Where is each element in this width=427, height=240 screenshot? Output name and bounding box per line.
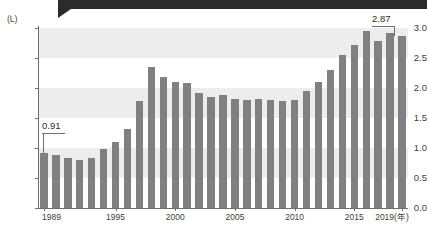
y-axis-unit-label: (L): [7, 14, 17, 24]
bar: [339, 55, 346, 208]
bar: [52, 155, 59, 208]
annotation-underline: [372, 26, 395, 27]
y-axis-tick-mark: [35, 28, 38, 29]
value-annotation: 0.91: [42, 121, 61, 131]
x-axis-tick-label: 2015: [345, 213, 364, 222]
bar: [363, 31, 370, 208]
x-axis-tick-label: 2000: [166, 213, 185, 222]
y-axis-tick-label: 3.0: [399, 23, 427, 33]
bar: [351, 45, 358, 208]
annotation-leader-line: [394, 26, 395, 36]
bar: [231, 99, 238, 208]
y-axis-tick-mark: [35, 148, 38, 149]
bar: [315, 82, 322, 208]
bar: [386, 33, 393, 208]
bar: [255, 99, 262, 208]
x-axis-tick-label: 1995: [106, 213, 125, 222]
bar: [160, 77, 167, 208]
x-axis-tick-mark: [235, 208, 236, 211]
x-axis-tick-mark: [44, 208, 45, 211]
x-axis-tick-label: 2005: [225, 213, 244, 222]
bar: [136, 101, 143, 208]
x-axis-tick-mark: [116, 208, 117, 211]
bar: [148, 67, 155, 208]
bar: [279, 101, 286, 208]
bar: [219, 95, 226, 208]
x-axis-tick-mark: [402, 208, 403, 211]
x-axis-tick-label: 2019(年): [375, 213, 409, 222]
y-axis-line: [38, 26, 39, 209]
bar: [303, 91, 310, 208]
bar: [374, 41, 381, 208]
x-axis-tick-mark: [354, 208, 355, 211]
bar: [124, 129, 131, 208]
annotation-underline: [42, 133, 65, 134]
x-axis-line: [38, 208, 408, 209]
bar: [100, 149, 107, 208]
y-axis-tick-mark: [35, 118, 38, 119]
x-axis-tick-label: 1989: [42, 213, 61, 222]
bar: [207, 97, 214, 208]
bar: [398, 36, 405, 208]
bar: [76, 160, 83, 208]
annotation-leader-line: [43, 133, 44, 153]
bar: [267, 100, 274, 208]
value-annotation: 2.87: [372, 14, 391, 24]
bar: [291, 100, 298, 208]
bar: [88, 158, 95, 208]
bar: [243, 100, 250, 208]
bar: [40, 153, 47, 208]
bar: [183, 83, 190, 208]
bar: [172, 82, 179, 208]
bar: [327, 70, 334, 208]
bar-chart: (L) 0.00.51.01.52.02.53.0 19891995200020…: [0, 0, 427, 240]
bar: [195, 93, 202, 208]
bar: [112, 142, 119, 208]
x-axis-tick-label: 2010: [285, 213, 304, 222]
y-axis-tick-mark: [35, 88, 38, 89]
x-axis-tick-mark: [295, 208, 296, 211]
y-axis-tick-mark: [35, 208, 38, 209]
x-axis-tick-mark: [175, 208, 176, 211]
y-axis-tick-mark: [35, 58, 38, 59]
bar: [64, 158, 71, 208]
y-axis-tick-mark: [35, 178, 38, 179]
